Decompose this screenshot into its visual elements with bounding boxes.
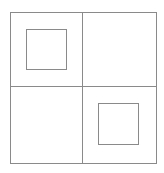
inner-square-bottom-right xyxy=(99,104,139,145)
outer-square xyxy=(11,13,157,164)
quadrant-diagram xyxy=(0,0,164,173)
inner-square-top-left xyxy=(27,30,67,70)
